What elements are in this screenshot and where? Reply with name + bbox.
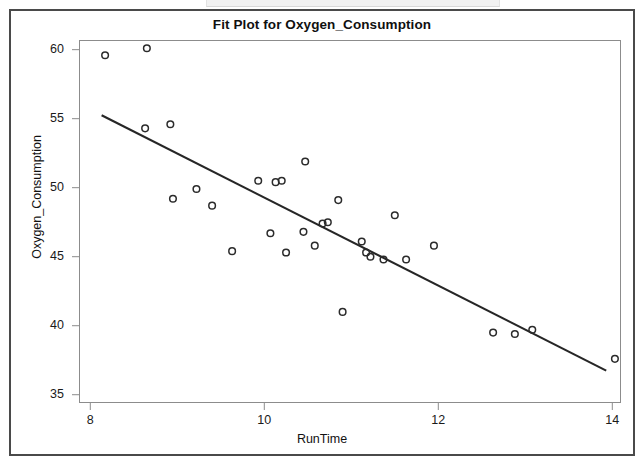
x-tick-label: 14 [592,413,632,427]
data-point [339,309,346,316]
data-point [358,238,365,245]
data-point [612,356,619,363]
data-point [403,256,410,263]
data-point [229,248,236,255]
data-point [209,202,216,209]
x-axis-ticks [90,403,612,410]
x-tick-label: 8 [70,413,110,427]
data-point-markers [102,45,618,362]
data-point [392,212,399,219]
data-point [142,125,149,132]
x-tick-label: 12 [418,413,458,427]
data-point [170,195,177,202]
y-tick-label: 35 [24,387,64,401]
data-point [490,329,497,336]
scatter-plot-canvas [0,0,644,472]
data-point [255,177,262,184]
x-tick-label: 10 [244,413,284,427]
y-tick-label: 55 [24,111,64,125]
data-point [267,230,274,237]
data-point [302,158,309,165]
y-tick-label: 45 [24,249,64,263]
y-tick-label: 40 [24,318,64,332]
data-point [300,229,307,236]
data-point [367,253,374,260]
y-axis-ticks [72,50,79,395]
data-point [193,186,200,193]
y-tick-label: 50 [24,180,64,194]
data-point [512,331,519,338]
data-point [167,121,174,128]
data-point [431,242,438,249]
data-point [144,45,151,52]
x-axis-title: RunTime [0,432,644,446]
data-point [102,52,109,59]
data-point [311,242,318,249]
y-tick-label: 60 [24,42,64,56]
data-point [283,249,290,256]
data-point [335,197,342,204]
